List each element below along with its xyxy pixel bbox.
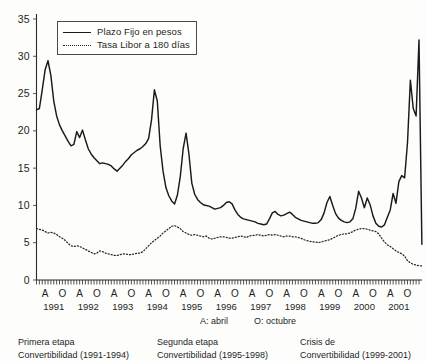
y-axis-tick-label: 20 <box>18 124 30 136</box>
legend-line-swatch-dotted <box>62 40 92 50</box>
series-lines <box>37 40 422 266</box>
legend-entry-plazo-fijo: Plazo Fijo en pesos <box>62 25 190 38</box>
x-axis-year-label: 1999 <box>319 301 340 312</box>
x-axis-month-label: A <box>318 288 325 299</box>
y-axis-tick-label: 15 <box>18 162 30 174</box>
x-axis-month-label: A <box>180 288 187 299</box>
chart-legend: Plazo Fijo en pesos Tasa Libor a 180 día… <box>57 21 197 55</box>
chart-figure: 05101520253035 AOAOAOAOAOAOAOAOAOAOAO199… <box>0 0 426 361</box>
x-axis-month-label: O <box>93 288 101 299</box>
series-line-tasa-libor <box>37 226 422 266</box>
x-axis-month-label: O <box>404 288 412 299</box>
y-axis-tick-label: 25 <box>18 87 30 99</box>
caption-primera-etapa: Primera etapa Convertibilidad (1991-1994… <box>18 336 129 361</box>
y-axis-tick-label: 0 <box>24 274 30 286</box>
x-axis-year-label: 1998 <box>285 301 306 312</box>
x-axis-month-label: O <box>266 288 274 299</box>
legend-label-plazo-fijo: Plazo Fijo en pesos <box>97 26 182 37</box>
legend-label-tasa-libor: Tasa Libor a 180 días <box>97 39 190 50</box>
month-key-octubre: O: octubre <box>254 316 296 326</box>
x-axis-year-label: 1996 <box>216 301 237 312</box>
x-axis-year-label: 1997 <box>250 301 271 312</box>
x-axis-month-label: O <box>231 288 239 299</box>
x-axis-year-label: 1995 <box>181 301 202 312</box>
x-axis-year-label: 1992 <box>78 301 99 312</box>
x-axis-year-label: 2001 <box>388 301 409 312</box>
y-axis-tick-label: 30 <box>18 50 30 62</box>
y-axis-tick-label: 35 <box>18 13 30 25</box>
x-axis-month-label: O <box>369 288 377 299</box>
x-axis-month-label: A <box>283 288 290 299</box>
x-axis: AOAOAOAOAOAOAOAOAOAOAO199119921993199419… <box>37 280 423 312</box>
figure-captions: Primera etapa Convertibilidad (1991-1994… <box>0 330 426 361</box>
x-axis-year-label: 1994 <box>147 301 168 312</box>
x-axis-month-label: A <box>249 288 256 299</box>
x-axis-year-label: 1993 <box>112 301 133 312</box>
legend-line-swatch-solid <box>62 27 92 37</box>
x-axis-month-label: A <box>111 288 118 299</box>
x-axis-month-label: A <box>214 288 221 299</box>
x-axis-month-label: A <box>76 288 83 299</box>
x-axis-month-label: A <box>145 288 152 299</box>
x-axis-month-label: O <box>162 288 170 299</box>
month-key-abril: A: abril <box>200 316 228 326</box>
y-axis-tick-label: 10 <box>18 199 30 211</box>
x-axis-year-label: 1991 <box>43 301 64 312</box>
x-axis-month-label: A <box>352 288 359 299</box>
y-axis-tick-label: 5 <box>24 236 30 248</box>
caption-crisis-convertibilidad: Crisis de Convertibilidad (1999-2001) <box>300 336 411 361</box>
x-axis-month-label: A <box>387 288 394 299</box>
x-axis-year-label: 2000 <box>354 301 375 312</box>
x-axis-month-label: A <box>42 288 49 299</box>
x-axis-month-label: O <box>335 288 343 299</box>
month-abbreviation-key: A: abril O: octubre <box>200 316 296 326</box>
x-axis-month-label: O <box>300 288 308 299</box>
series-line-plazo-fijo <box>37 40 422 244</box>
x-axis-month-label: O <box>58 288 66 299</box>
x-axis-month-label: O <box>128 288 136 299</box>
legend-entry-tasa-libor: Tasa Libor a 180 días <box>62 38 190 51</box>
caption-segunda-etapa: Segunda etapa Convertibilidad (1995-1998… <box>157 336 268 361</box>
y-axis: 05101520253035 <box>18 13 37 286</box>
x-axis-month-label: O <box>197 288 205 299</box>
